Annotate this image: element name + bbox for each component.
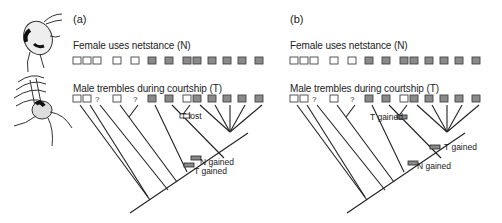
open-state-box (330, 95, 338, 102)
open-state-box (300, 95, 308, 102)
open-state-box (290, 57, 298, 64)
filled-state-box (365, 95, 373, 102)
panel-b-t-gained-backbone-label: T gained (444, 142, 477, 152)
filled-state-box (400, 57, 408, 64)
t-gained-marker (430, 145, 440, 149)
filled-state-box (255, 95, 263, 102)
filled-state-box (183, 57, 191, 64)
open-state-box (330, 57, 338, 64)
filled-state-box (223, 95, 231, 102)
filled-state-box (238, 95, 246, 102)
filled-state-box (165, 95, 173, 102)
open-state-box (73, 57, 81, 64)
open-state-box (73, 95, 81, 102)
panel-b-t-gained-clade-label: T gained (370, 113, 400, 122)
filled-state-box (255, 57, 263, 64)
filled-state-box (425, 57, 433, 64)
open-state-box (310, 57, 318, 64)
open-state-box (83, 95, 91, 102)
unknown-state-marker: ? (312, 95, 317, 104)
filled-state-box (410, 95, 418, 102)
open-state-box (113, 57, 121, 64)
filled-state-box (208, 95, 216, 102)
panel-b-n-gained-label: N gained (417, 161, 451, 171)
panel-a-t-lost-label: T lost (181, 111, 202, 121)
open-state-box (348, 57, 356, 64)
filled-state-box (148, 57, 156, 64)
open-state-box (183, 95, 191, 102)
phylogeny-diagram: ???? (0, 0, 502, 223)
filled-state-box (440, 95, 448, 102)
filled-state-box (382, 95, 390, 102)
filled-state-box (208, 57, 216, 64)
filled-state-box (165, 57, 173, 64)
unknown-state-marker: ? (95, 95, 100, 104)
open-state-box (131, 57, 139, 64)
filled-state-box (238, 57, 246, 64)
panel-b-t-gained-text: T gained (370, 112, 403, 122)
filled-state-box (472, 95, 480, 102)
filled-state-box (223, 57, 231, 64)
open-state-box (300, 57, 308, 64)
open-state-box (93, 57, 101, 64)
filled-state-box (193, 57, 201, 64)
filled-state-box (148, 95, 156, 102)
unknown-state-marker: ? (133, 95, 138, 104)
filled-state-box (455, 57, 463, 64)
unknown-state-marker: ? (350, 95, 355, 104)
filled-state-box (410, 57, 418, 64)
filled-state-box (472, 57, 480, 64)
open-state-box (113, 95, 121, 102)
open-state-box (83, 57, 91, 64)
filled-state-box (365, 57, 373, 64)
filled-state-box (440, 57, 448, 64)
filled-state-box (425, 95, 433, 102)
panel-a-t-gained-label: T gained (194, 166, 227, 176)
filled-state-box (455, 95, 463, 102)
open-state-box (290, 95, 298, 102)
filled-state-box (382, 57, 390, 64)
open-state-box (400, 95, 408, 102)
t-gained-marker (184, 163, 194, 167)
filled-state-box (193, 95, 201, 102)
